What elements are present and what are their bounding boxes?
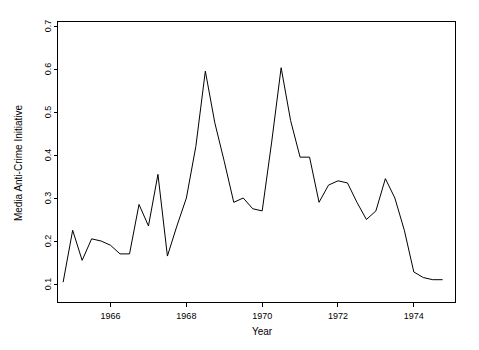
chart-page: 0.10.20.30.40.50.60.7 196619681970197219…: [0, 0, 479, 350]
y-axis-tick-labels: 0.10.20.30.40.50.60.7: [43, 20, 53, 291]
x-axis-ticks: [111, 303, 414, 307]
x-tick-label: 1972: [328, 311, 348, 321]
y-tick-label: 0.1: [43, 278, 53, 291]
x-tick-label: 1966: [101, 311, 121, 321]
x-axis-tick-labels: 19661968197019721974: [101, 311, 424, 321]
y-tick-label: 0.5: [43, 106, 53, 119]
x-tick-label: 1970: [252, 311, 272, 321]
y-tick-label: 0.4: [43, 149, 53, 162]
x-tick-label: 1974: [404, 311, 424, 321]
data-series-line: [63, 68, 442, 282]
plot-frame: [58, 22, 456, 303]
y-axis-title: Media Anti-Crime Initiative: [13, 104, 24, 221]
x-axis-title: Year: [252, 326, 273, 337]
y-axis-ticks: [54, 26, 58, 284]
y-tick-label: 0.2: [43, 235, 53, 248]
y-tick-label: 0.7: [43, 20, 53, 33]
y-tick-label: 0.6: [43, 63, 53, 76]
x-tick-label: 1968: [176, 311, 196, 321]
line-chart: 0.10.20.30.40.50.60.7 196619681970197219…: [0, 0, 479, 350]
y-tick-label: 0.3: [43, 192, 53, 205]
